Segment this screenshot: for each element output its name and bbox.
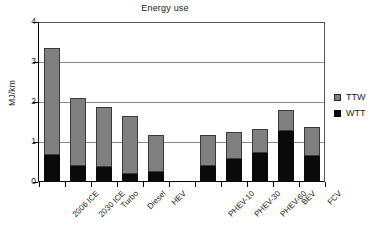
legend-item-ttw: TTW	[334, 92, 389, 102]
bar-segment-wtt	[44, 155, 60, 182]
bar-segment-ttw	[148, 135, 164, 173]
stacked-bar	[70, 98, 86, 182]
stacked-bar	[122, 116, 138, 182]
bar-segment-ttw	[278, 110, 294, 131]
x-tick-label-diesel: Diesel	[146, 189, 168, 211]
x-tick-mark-3	[117, 182, 118, 187]
bar-segment-ttw	[122, 116, 138, 174]
bar-group-2030-ice	[65, 22, 91, 182]
stacked-bar	[304, 127, 320, 182]
y-tick-mark-4	[33, 22, 38, 23]
stacked-bar	[278, 110, 294, 182]
y-tick-label-1: 1	[26, 136, 36, 146]
bar-group-diesel	[117, 22, 143, 182]
x-tick-mark-7	[221, 182, 222, 187]
x-tick-mark-2	[91, 182, 92, 187]
bar-segment-wtt	[200, 166, 216, 182]
bar-segment-wtt	[304, 156, 320, 182]
legend-swatch-ttw-icon	[334, 94, 341, 101]
bar-group-empty	[169, 22, 195, 182]
chart-title: Energy use	[0, 3, 330, 13]
x-tick-mark-8	[247, 182, 248, 187]
x-tick-mark-1	[65, 182, 66, 187]
legend-item-wtt: WTT	[334, 108, 389, 118]
y-axis-label: MJ/km	[7, 68, 17, 118]
bar-group-hev	[143, 22, 169, 182]
legend-label-wtt: WTT	[346, 108, 366, 118]
stacked-bar	[44, 48, 60, 182]
bar-segment-ttw	[226, 132, 242, 159]
bar-segment-ttw	[200, 135, 216, 166]
stacked-bar	[252, 129, 268, 182]
x-tick-label-2006-ice: 2006 ICE	[71, 189, 101, 219]
x-tick-label-fcv: FCV	[326, 189, 344, 207]
y-tick-label-3: 3	[26, 56, 36, 66]
x-tick-mark-0	[39, 182, 40, 187]
bar-segment-wtt	[252, 153, 268, 182]
bar-segment-ttw	[96, 107, 112, 167]
bar-segment-wtt	[122, 174, 138, 182]
x-tick-label-hev: HEV	[170, 189, 188, 207]
bar-segment-ttw	[44, 48, 60, 155]
chart-legend: TTW WTT	[334, 92, 389, 124]
bar-group-bev	[273, 22, 299, 182]
x-tick-mark-6	[195, 182, 196, 187]
bar-segment-ttw	[304, 127, 320, 156]
bar-segment-wtt	[226, 159, 242, 182]
x-tick-label-phev-30: PHEV-30	[253, 189, 283, 219]
bar-group-phev-60	[247, 22, 273, 182]
bar-group-turbo	[91, 22, 117, 182]
bar-segment-wtt	[278, 131, 294, 182]
bar-group-2006-ice	[39, 22, 65, 182]
legend-swatch-wtt-icon	[334, 110, 341, 117]
bar-segment-wtt	[96, 167, 112, 182]
bar-segment-wtt	[148, 172, 164, 182]
x-tick-mark-10	[299, 182, 300, 187]
bar-segment-ttw	[252, 129, 268, 153]
energy-use-chart: Energy use MJ/km 01234 2006 ICE2030 ICET…	[0, 0, 389, 237]
y-tick-mark-0	[33, 182, 38, 183]
stacked-bar	[96, 107, 112, 182]
y-tick-mark-2	[33, 102, 38, 103]
y-tick-label-0: 0	[26, 176, 36, 186]
bar-group-phev-10	[195, 22, 221, 182]
stacked-bar	[200, 135, 216, 182]
y-tick-label-4: 4	[26, 16, 36, 26]
bar-group-phev-30	[221, 22, 247, 182]
y-tick-label-2: 2	[26, 96, 36, 106]
x-tick-mark-5	[169, 182, 170, 187]
x-tick-mark-11	[325, 182, 326, 187]
legend-label-ttw: TTW	[346, 92, 366, 102]
bar-segment-ttw	[70, 98, 86, 165]
y-tick-mark-3	[33, 62, 38, 63]
y-tick-mark-1	[33, 142, 38, 143]
x-tick-label-phev-10: PHEV-10	[227, 189, 257, 219]
x-tick-mark-4	[143, 182, 144, 187]
x-tick-mark-9	[273, 182, 274, 187]
stacked-bar	[148, 135, 164, 182]
bar-group-fcv	[299, 22, 325, 182]
bar-segment-wtt	[70, 166, 86, 182]
stacked-bar	[226, 132, 242, 182]
bars-layer	[39, 22, 324, 182]
